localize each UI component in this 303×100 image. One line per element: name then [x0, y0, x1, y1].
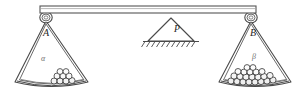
fulcrum-triangle — [148, 18, 194, 41]
left-pan-label: A — [42, 27, 50, 38]
left-pivot-eyelet — [40, 12, 52, 23]
balance-beam — [40, 6, 256, 13]
right-pan-label: B — [250, 27, 256, 38]
right-pan-greek-label: β — [251, 52, 256, 61]
fulcrum-label: P — [173, 24, 180, 34]
fulcrum-ground-hatching — [142, 42, 196, 48]
diagram-canvas: A α — [0, 0, 303, 100]
right-pan-group: B β — [219, 12, 291, 86]
fulcrum-group: P — [142, 18, 200, 47]
balance-scale-diagram: A α — [0, 0, 303, 100]
left-pan-outer-shell — [15, 21, 88, 87]
left-pan-group: A α — [15, 12, 88, 86]
right-pivot-eyelet — [245, 12, 257, 23]
beam-group — [40, 6, 256, 13]
